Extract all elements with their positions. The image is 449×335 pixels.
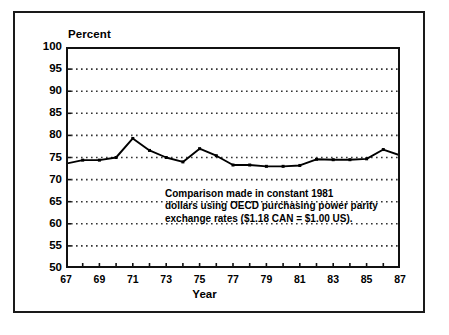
- x-axis-title: Year: [0, 288, 449, 300]
- x-axis-tick-label: 69: [94, 273, 106, 285]
- x-axis-tick-label: 83: [327, 273, 339, 285]
- chart-figure: Percent 10095908580757065605550 67697173…: [0, 0, 449, 335]
- y-axis-title: Percent: [68, 28, 111, 40]
- y-axis-tick-labels: 10095908580757065605550: [16, 47, 62, 268]
- x-axis-tick-labels: 6769717375777981838587: [66, 273, 400, 289]
- x-axis-tick-label: 75: [194, 273, 206, 285]
- x-axis-tick-label: 79: [261, 273, 273, 285]
- y-axis-tick-label: 60: [20, 218, 62, 230]
- x-axis-tick-label: 71: [127, 273, 139, 285]
- y-axis-tick-label: 70: [20, 174, 62, 186]
- x-axis-tick-label: 67: [60, 273, 72, 285]
- annotation-line: exchange rates ($1.18 CAN = $1.00 US).: [165, 213, 397, 225]
- x-axis-tick-label: 87: [394, 273, 406, 285]
- chart-annotation: Comparison made in constant 1981dollars …: [165, 188, 397, 225]
- y-axis-tick-label: 80: [20, 130, 62, 142]
- x-axis-tick-label: 85: [361, 273, 373, 285]
- y-axis-tick-label: 100: [20, 41, 62, 53]
- y-axis-tick-label: 75: [20, 152, 62, 164]
- annotation-line: Comparison made in constant 1981: [165, 188, 397, 200]
- y-axis-tick-label: 65: [20, 196, 62, 208]
- y-axis-tick-label: 95: [20, 63, 62, 75]
- x-axis-tick-label: 81: [294, 273, 306, 285]
- y-axis-tick-label: 85: [20, 108, 62, 120]
- y-axis-tick-label: 90: [20, 85, 62, 97]
- x-axis-tick-label: 77: [227, 273, 239, 285]
- plot-area: [66, 47, 400, 268]
- plot-frame: [66, 47, 400, 268]
- y-axis-tick-label: 50: [20, 262, 62, 274]
- y-axis-tick-label: 55: [20, 240, 62, 252]
- x-axis-tick-label: 73: [160, 273, 172, 285]
- annotation-line: dollars using OECD purchasing power pari…: [165, 200, 397, 212]
- x-axis-title-text: Year: [192, 288, 216, 300]
